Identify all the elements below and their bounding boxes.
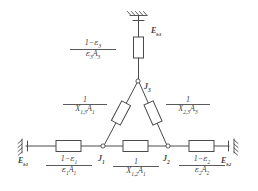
label-surface-2-numerator: 1−ε2 [179,155,225,165]
label-space-13-denominator: X1,3A1 [63,104,107,115]
label-surface-resistance-1: 1−ε1 ε1A1 [46,155,92,177]
label-node-j3: J3 [144,83,151,93]
label-eb2-sub: b2 [226,162,231,167]
label-eb1: Eb1 [18,157,28,167]
label-surface-1-denominator: ε1A1 [46,165,92,176]
terminal-eb1-hatch [18,139,22,155]
resistor-space-23 [144,101,162,125]
label-space-23-denominator: X2,3A3 [166,104,210,115]
resistor-surface-3 [134,37,144,58]
label-surface-resistance-2: 1−ε2 ε2A2 [179,155,225,177]
resistor-surface-1 [56,141,81,152]
resistor-surface-2 [189,141,214,152]
node-dot-j2 [166,144,170,148]
label-surface-1-numerator: 1−ε1 [46,155,92,165]
label-space-resistance-13: 1 X1,3A1 [63,96,107,116]
node-dot-j3 [136,79,140,83]
label-node-j2: J2 [163,155,170,165]
node-dot-j1 [101,144,105,148]
label-eb3: Eb3 [151,27,161,37]
label-j1-sub: 1 [102,159,105,165]
label-node-j1: J1 [98,155,105,165]
label-space-12-numerator: 1 [113,158,159,166]
label-space-resistance-12: 1 X1,2A1 [113,158,159,178]
label-space-12-denominator: X1,2A1 [113,166,159,177]
label-eb3-sub: b3 [156,32,161,37]
label-surface-resistance-3: 1−ε3 ε3A3 [70,39,116,61]
label-surface-2-denominator: ε2A2 [179,165,225,176]
resistor-space-13 [111,101,130,125]
label-space-13-numerator: 1 [63,96,107,104]
resistor-space-12 [123,141,148,152]
label-eb1-sub: b1 [23,162,28,167]
label-j3-sub: 3 [148,87,151,93]
label-surface-3-denominator: ε3A3 [70,49,116,60]
label-space-23-numerator: 1 [166,96,210,104]
label-surface-3-numerator: 1−ε3 [70,39,116,49]
terminal-eb2-hatch [234,139,238,155]
label-space-resistance-23: 1 X2,3A3 [166,96,210,116]
terminal-eb3-hatch [128,12,148,16]
label-j2-sub: 2 [167,159,170,165]
label-eb2: Eb2 [221,157,231,167]
